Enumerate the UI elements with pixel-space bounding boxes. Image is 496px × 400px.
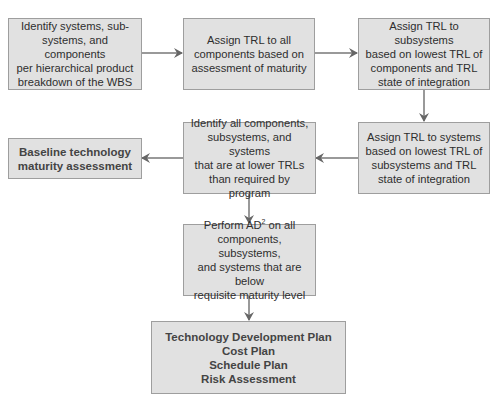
node-assign-trl-components: Assign TRL to all components based on as… [183,18,315,90]
node-label: Assign TRL to subsystems based on lowest… [363,19,485,89]
node-label: Technology Development Plan Cost Plan Sc… [165,330,332,386]
node-label: Perform AD2 on all components, subsystem… [188,218,311,302]
node-label: Assign TRL to all components based on as… [191,33,306,75]
node-perform-ad2: Perform AD2 on all components, subsystem… [183,224,316,296]
node-baseline-assessment: Baseline technology maturity assessment [8,138,142,179]
node-identify-lower-trl: Identify all components, subsystems, and… [183,122,316,194]
node-plans: Technology Development Plan Cost Plan Sc… [151,321,346,394]
node-assign-trl-systems: Assign TRL to systems based on lowest TR… [358,122,490,194]
node-label: Baseline technology maturity assessment [18,145,132,173]
node-assign-trl-subsystems: Assign TRL to subsystems based on lowest… [358,18,490,90]
node-label: Identify systems, sub- systems, and comp… [13,19,137,89]
node-label: Identify all components, subsystems, and… [188,116,311,200]
node-label: Assign TRL to systems based on lowest TR… [366,130,483,186]
node-identify-wbs: Identify systems, sub- systems, and comp… [8,18,142,90]
